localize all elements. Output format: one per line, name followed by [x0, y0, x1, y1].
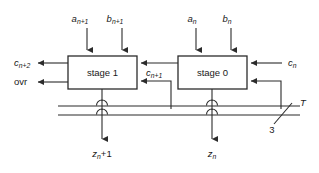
label-input-c-n: cn: [288, 57, 297, 69]
label-input-b-n-plus-1: bn+1: [107, 13, 124, 25]
label-layer: an+1 bn+1 an bn cn+2 ovr cn+1 cn stage 1…: [0, 0, 319, 173]
label-carry-c-n-plus-1: cn+1: [146, 67, 162, 79]
label-output-z-n: zn: [207, 148, 217, 160]
label-input-b-n: bn: [222, 13, 231, 25]
label-output-c-n-plus-2: cn+2: [14, 57, 30, 69]
label-block-stage-1: stage 1: [87, 67, 118, 78]
label-output-ovr: ovr: [14, 76, 27, 87]
label-bus-t: T: [300, 97, 307, 108]
label-input-a-n: an: [187, 13, 196, 25]
logic-diagram: an+1 bn+1 an bn cn+2 ovr cn+1 cn stage 1…: [0, 0, 319, 173]
label-output-z-n-plus-1: zn+1: [91, 148, 111, 160]
label-block-stage-0: stage 0: [197, 67, 228, 78]
label-bus-width: 3: [269, 124, 274, 135]
label-input-a-n-plus-1: an+1: [72, 13, 89, 25]
